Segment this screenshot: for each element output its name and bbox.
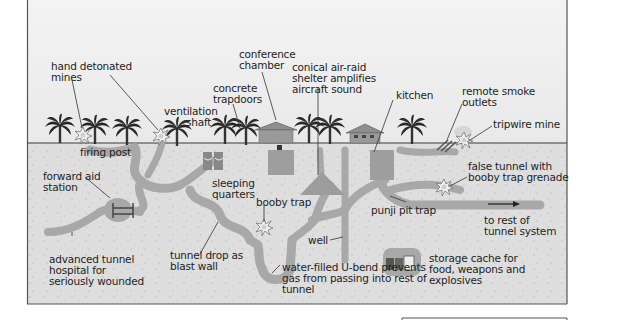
label-tripwire-mine: tripwire mine bbox=[493, 119, 560, 130]
label-air-raid-shelter: conical air-raid shelter amplifies aircr… bbox=[292, 62, 376, 95]
label-advanced-tunnel-hospital: advanced tunnel hospital for seriously w… bbox=[49, 254, 144, 287]
label-firing-post: firing post bbox=[80, 147, 131, 158]
label-forward-aid-station: forward aid station bbox=[43, 171, 100, 193]
label-well: well bbox=[308, 235, 328, 246]
label-concrete-trapdoors: concrete trapdoors bbox=[213, 83, 262, 105]
label-storage-cache: storage cache for food, weapons and expl… bbox=[429, 253, 525, 286]
label-remote-smoke-outlets: remote smoke outlets bbox=[462, 86, 535, 108]
label-tunnel-drop: tunnel drop as blast wall bbox=[170, 250, 243, 272]
label-hand-detonated-mines: hand detonated mines bbox=[51, 61, 132, 83]
tunnel-diagram: hand detonated mines firing post ventila… bbox=[0, 0, 624, 320]
label-kitchen: kitchen bbox=[396, 90, 433, 101]
label-conference-chamber: conference chamber bbox=[239, 49, 295, 71]
label-to-rest-of-tunnel: to rest of tunnel system bbox=[484, 215, 556, 237]
label-false-tunnel: false tunnel with booby trap grenade bbox=[468, 161, 568, 183]
label-booby-trap: booby trap bbox=[256, 197, 311, 208]
label-ventilation-shaft: ventilation shaft bbox=[164, 106, 218, 128]
label-punji-pit-trap: punji pit trap bbox=[371, 205, 436, 216]
label-sleeping-quarters: sleeping quarters bbox=[212, 178, 255, 200]
label-water-filled-u-bend: water-filled U-bend prevents gas from pa… bbox=[282, 262, 427, 295]
